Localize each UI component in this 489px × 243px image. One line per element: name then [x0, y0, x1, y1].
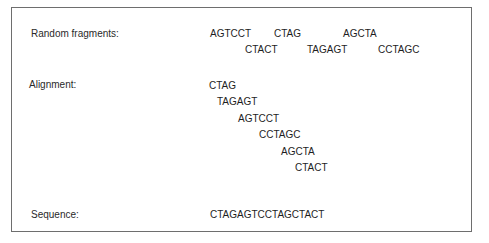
aligned-fragment: CTAG	[209, 80, 236, 92]
fragment: AGTCCT	[210, 28, 251, 40]
aligned-fragment: AGTCCT	[238, 113, 279, 125]
aligned-fragment: AGCTA	[281, 146, 315, 158]
sequence-label: Sequence:	[31, 209, 79, 221]
fragment: CCTAGC	[378, 44, 419, 56]
aligned-fragment: CCTAGC	[259, 129, 300, 141]
fragment: CTAG	[274, 28, 301, 40]
fragment: AGCTA	[343, 28, 377, 40]
aligned-fragment: TAGAGT	[217, 96, 257, 108]
fragment: CTACT	[245, 44, 278, 56]
fragment: TAGAGT	[307, 44, 347, 56]
aligned-fragment: CTACT	[295, 162, 328, 174]
assembled-sequence: CTAGAGTCCTAGCTACT	[210, 209, 324, 221]
random-fragments-label: Random fragments:	[31, 28, 119, 40]
alignment-label: Alignment:	[29, 79, 76, 91]
